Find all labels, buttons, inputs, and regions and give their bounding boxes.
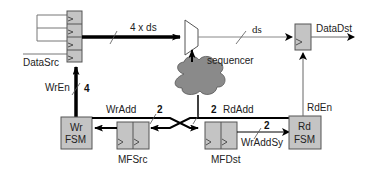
data-dst-label: DataDst: [316, 23, 352, 34]
wr-en-bus: [72, 67, 80, 117]
wr-add-label: WrAdd: [106, 104, 136, 115]
wr-en-width: 4: [84, 83, 90, 94]
wr-add-sy-label: WrAddSy: [241, 137, 283, 148]
mux-shape: [185, 20, 198, 55]
mf-dst-label: MFDst: [211, 154, 241, 165]
data-src-input-lines: [23, 15, 67, 54]
wr-fsm-block: Wr FSM: [61, 117, 92, 149]
wide-bus-label: 4 x ds: [130, 22, 157, 33]
rd-add-width: 2: [211, 104, 217, 115]
mf-src-block: [117, 122, 149, 149]
fifo-diagram: DataSrc 4 x ds ds DataDst sequencer WrEn…: [0, 0, 372, 173]
rd-en-label: RdEn: [307, 102, 332, 113]
wr-fsm-label-line2: FSM: [65, 134, 86, 145]
data-src-register: [67, 11, 82, 62]
data-dst-register: [295, 24, 311, 50]
rd-fsm-block: Rd FSM: [289, 116, 321, 149]
mf-dst-block: [205, 122, 237, 149]
rd-fsm-label-line1: Rd: [298, 121, 311, 132]
narrow-bus: [198, 31, 292, 44]
narrow-bus-label: ds: [252, 23, 262, 35]
wr-add-sy-width: 2: [264, 120, 270, 131]
wr-en-label: WrEn: [45, 82, 70, 93]
sequencer-label: sequencer: [207, 55, 254, 66]
wr-fsm-label-line1: Wr: [70, 122, 83, 133]
rd-fsm-label-line2: FSM: [294, 134, 315, 145]
mf-src-label: MFSrc: [118, 154, 147, 165]
data-src-label: DataSrc: [23, 57, 59, 68]
rd-add-label: RdAdd: [223, 104, 254, 115]
wr-add-width: 2: [157, 104, 163, 115]
